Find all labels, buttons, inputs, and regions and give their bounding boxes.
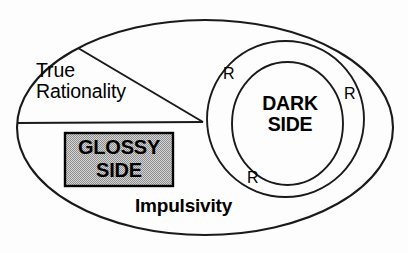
true-rationality-line1: True [36,59,75,81]
r-marker-bottom: R [247,169,259,187]
dark-side-line1: DARK [262,92,318,114]
dark-side-line2: SIDE [268,113,313,135]
dark-side-label: DARKSIDE [248,93,332,136]
true-rationality-line2: Rationality [36,80,126,102]
glossy-side-line2: SIDE [96,159,142,181]
r-marker-top-left: R [223,65,235,83]
r-marker-right: R [344,85,356,103]
impulsivity-label: Impulsivity [135,196,232,216]
glossy-side-label: GLOSSYSIDE [65,136,173,181]
glossy-side-line1: GLOSSY [78,136,160,158]
true-rationality-label: TrueRationality [36,60,126,101]
true-rationality-wedge-horizontal [17,122,203,123]
impulsivity-diagram: TrueRationality GLOSSYSIDE DARKSIDE Impu… [0,0,408,253]
